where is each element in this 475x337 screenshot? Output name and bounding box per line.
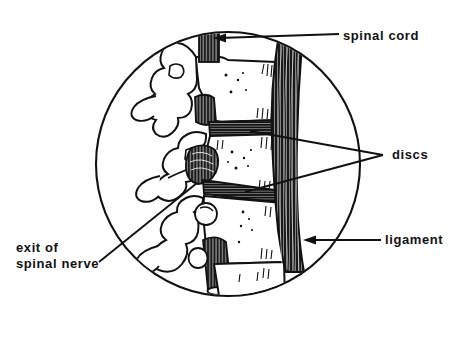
label-exit-of-spinal-nerve: exit ofspinal nerve [16, 240, 99, 272]
facet-detail-1 [169, 64, 184, 78]
label-spinal-cord: spinal cord [343, 28, 419, 44]
nerve-ganglion-bulb [189, 248, 208, 268]
spinal-cord-body [199, 20, 219, 62]
nerve-root-stub-1 [195, 95, 216, 125]
label-exit-of-spinal-nerve-line1: exit of [16, 240, 58, 255]
spinal-cord-leader [219, 34, 339, 38]
spine-illustration [0, 0, 475, 337]
figure-canvas: spinal cord discs ligament exit ofspinal… [0, 0, 475, 337]
posterior-arch-1 [146, 43, 197, 137]
spinal-cord-top-cap [199, 17, 219, 24]
facet-joint-3 [195, 203, 217, 225]
ligament-arrowhead [303, 236, 316, 245]
spinous-process-1 [131, 96, 156, 121]
label-discs: discs [392, 147, 428, 163]
label-exit-of-spinal-nerve-line2: spinal nerve [16, 256, 99, 271]
spinous-process-2 [136, 176, 160, 202]
label-ligament: ligament [385, 232, 443, 248]
